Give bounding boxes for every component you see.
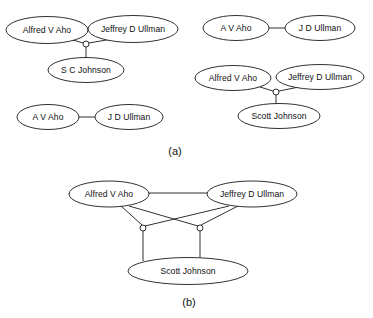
node-label-jeffrey-d-ullman-right: Jeffrey D Ullman	[288, 72, 352, 82]
panel-a: Alfred V Aho Jeffrey D Ullman S C Johnso…	[6, 16, 364, 157]
diagram-canvas: Alfred V Aho Jeffrey D Ullman S C Johnso…	[0, 0, 373, 318]
edge-b-ullman-junction-right	[201, 206, 238, 225]
node-label-jeffrey-d-ullman-panel-b: Jeffrey D Ullman	[220, 189, 284, 199]
node-label-j-d-ullman-right: J D Ullman	[299, 23, 342, 33]
group-a4: Alfred V Aho Jeffrey D Ullman Scott John…	[195, 65, 364, 129]
junction-node-b-right[interactable]	[197, 225, 203, 231]
figure-root: Alfred V Aho Jeffrey D Ullman S C Johnso…	[0, 0, 373, 318]
node-label-jeffrey-d-ullman: Jeffrey D Ullman	[101, 24, 165, 34]
node-label-alfred-v-aho-panel-b: Alfred V Aho	[85, 189, 134, 199]
group-b1: Alfred V Aho Jeffrey D Ullman Scott John…	[69, 181, 297, 285]
node-label-a-v-aho-left: A V Aho	[33, 112, 64, 122]
node-label-alfred-v-aho-right: Alfred V Aho	[209, 73, 258, 83]
node-label-scott-johnson-panel-a: Scott Johnson	[251, 111, 306, 121]
junction-node-a1[interactable]	[83, 41, 89, 47]
group-a1: Alfred V Aho Jeffrey D Ullman S C Johnso…	[6, 16, 178, 83]
node-label-scott-johnson-panel-b: Scott Johnson	[160, 266, 215, 276]
group-a2: A V Aho J D Ullman	[17, 105, 163, 130]
panel-b-caption: (b)	[182, 296, 195, 308]
edge-a4-aho-junction	[260, 87, 273, 91]
node-label-j-d-ullman-left: J D Ullman	[108, 112, 151, 122]
node-label-a-v-aho-right: A V Aho	[221, 23, 252, 33]
node-label-alfred-v-aho: Alfred V Aho	[23, 25, 72, 35]
junction-node-b-left[interactable]	[140, 225, 146, 231]
panel-a-caption: (a)	[168, 145, 181, 157]
panel-b: Alfred V Aho Jeffrey D Ullman Scott John…	[69, 181, 297, 308]
junction-node-a4[interactable]	[273, 89, 279, 95]
node-label-s-c-johnson: S C Johnson	[61, 65, 111, 75]
group-a3: A V Aho J D Ullman	[203, 16, 355, 41]
